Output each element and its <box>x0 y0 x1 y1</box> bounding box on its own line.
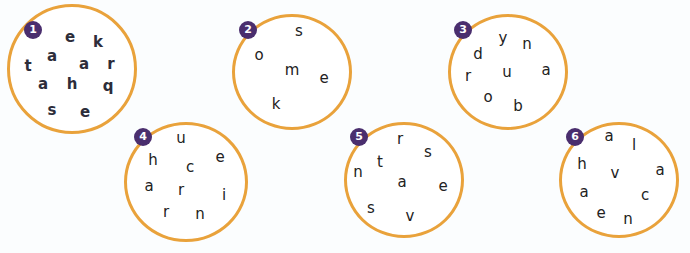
letter: l <box>632 138 636 153</box>
letter: c <box>186 160 194 175</box>
letter: a <box>604 129 613 144</box>
letter: a <box>397 175 406 190</box>
letter: u <box>176 131 186 146</box>
letter: e <box>80 105 90 120</box>
letter: r <box>178 183 184 198</box>
letter: a <box>79 57 89 72</box>
letter: r <box>397 132 403 147</box>
letter: s <box>48 103 57 118</box>
puzzle-number-badge-5: 5 <box>350 128 368 146</box>
letter: o <box>254 48 263 63</box>
letter: i <box>222 188 226 203</box>
letter: a <box>541 63 550 78</box>
letter: k <box>272 97 281 112</box>
letter: o <box>483 90 492 105</box>
letter: a <box>38 77 48 92</box>
letter: n <box>623 212 633 227</box>
letter: a <box>47 49 57 64</box>
letter: e <box>319 71 328 86</box>
letter: q <box>103 79 114 94</box>
letter: u <box>502 65 512 80</box>
letter: r <box>465 69 471 84</box>
letter: t <box>24 59 31 74</box>
letter: d <box>473 47 483 62</box>
puzzle-number-badge-3: 3 <box>454 21 472 39</box>
letter: s <box>295 24 303 39</box>
letter: k <box>93 35 103 50</box>
puzzle-number-badge-4: 4 <box>134 128 152 146</box>
puzzle-number-badge-2: 2 <box>239 21 257 39</box>
letter: s <box>424 145 432 160</box>
letter: n <box>353 165 363 180</box>
letter: a <box>144 179 153 194</box>
letter: v <box>406 209 415 224</box>
letter: n <box>522 37 532 52</box>
letter: e <box>215 150 224 165</box>
letter: s <box>367 201 375 216</box>
letter: a <box>579 185 588 200</box>
puzzle-number-badge-6: 6 <box>566 128 584 146</box>
letter: r <box>107 57 114 72</box>
letter: e <box>596 206 605 221</box>
letter: e <box>65 30 75 45</box>
letter: e <box>438 179 447 194</box>
letter: h <box>148 153 158 168</box>
puzzle-number-badge-1: 1 <box>24 21 42 39</box>
letter: h <box>577 157 587 172</box>
letter: r <box>163 205 169 220</box>
letter: h <box>67 77 78 92</box>
letter: y <box>499 31 508 46</box>
letter: n <box>195 207 205 222</box>
letter: t <box>377 155 383 170</box>
letter: m <box>285 63 300 78</box>
letter: a <box>655 163 664 178</box>
letter: b <box>513 99 523 114</box>
letter: v <box>611 166 620 181</box>
letter: c <box>641 188 649 203</box>
